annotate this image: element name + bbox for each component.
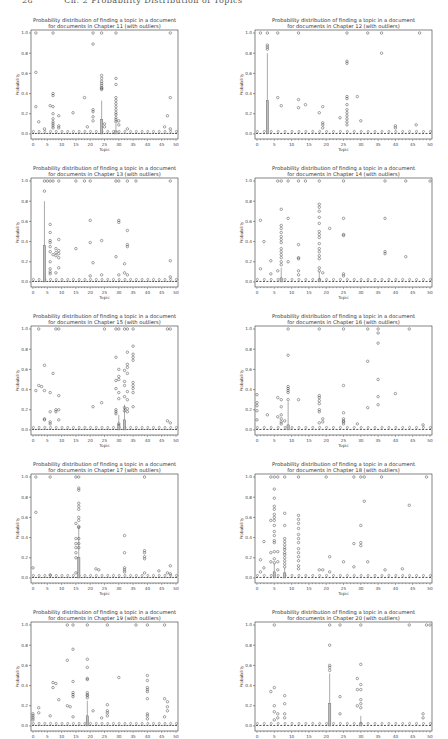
y-tick-label: 0.2	[245, 703, 252, 708]
x-tick-label: 40	[393, 734, 399, 739]
outlier-point	[277, 713, 280, 716]
outlier-point	[273, 705, 276, 708]
outlier-point	[425, 624, 428, 627]
outlier-point	[328, 644, 331, 647]
chart-subtitle: for documents in Chapter 20 (with outlie…	[287, 615, 399, 622]
plot-frame	[255, 622, 432, 731]
x-tick-label: 10	[289, 734, 295, 739]
outlier-point	[273, 711, 276, 714]
outlier-point	[328, 624, 331, 627]
outlier-point	[339, 713, 342, 716]
outlier-point	[283, 702, 286, 705]
outlier-point	[360, 663, 363, 666]
y-tick-label: 0.8	[245, 643, 252, 648]
outlier-point	[360, 698, 363, 701]
y-tick-label: 0.6	[245, 663, 252, 668]
x-tick-label: 0	[256, 734, 259, 739]
outlier-point	[283, 694, 286, 697]
outlier-point	[273, 686, 276, 689]
x-tick-label: 5	[273, 734, 276, 739]
outlier-point	[273, 719, 276, 722]
outlier-point	[429, 624, 432, 627]
outlier-point	[277, 717, 280, 720]
outlier-point	[283, 717, 286, 720]
y-tick-label: 0.0	[245, 723, 252, 728]
outlier-point	[283, 713, 286, 716]
box	[360, 723, 362, 726]
y-axis-label: Probability	[239, 665, 244, 688]
outlier-point	[328, 669, 331, 672]
outlier-point	[356, 677, 359, 680]
outlier-point	[360, 702, 363, 705]
outlier-point	[422, 713, 425, 716]
x-tick-label: 50	[427, 734, 433, 739]
y-tick-label: 0.4	[245, 683, 252, 688]
x-tick-label: 30	[358, 734, 364, 739]
x-tick-label: 15	[306, 734, 312, 739]
outlier-point	[356, 705, 359, 708]
outlier-point	[360, 688, 363, 691]
outlier-point	[422, 717, 425, 720]
box	[328, 704, 330, 726]
outlier-point	[360, 707, 363, 710]
outlier-point	[339, 695, 342, 698]
y-tick-label: 1.0	[245, 622, 252, 627]
outlier-point	[408, 624, 411, 627]
x-tick-label: 45	[410, 734, 416, 739]
outlier-point	[339, 624, 342, 627]
outlier-point	[356, 688, 359, 691]
x-tick-label: 35	[375, 734, 381, 739]
outlier-point	[360, 683, 363, 686]
boxplot-chapter-20: Probability distribution of finding a to…	[0, 0, 224, 148]
x-tick-label: 20	[324, 734, 330, 739]
outlier-point	[360, 624, 363, 627]
outlier-point	[273, 624, 276, 627]
outlier-point	[270, 690, 273, 693]
